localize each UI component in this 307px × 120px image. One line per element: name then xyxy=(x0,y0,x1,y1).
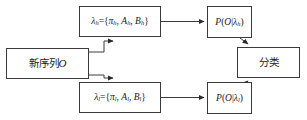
probability-low-node: P(O|λl) xyxy=(207,82,252,114)
model-low-label: λl={πl, Al, Bl} xyxy=(94,92,146,103)
edge-input-to-model-high xyxy=(89,41,113,52)
equals-open-brace: ={ xyxy=(99,16,109,26)
new-sequence-symbol: O xyxy=(59,57,67,69)
close-paren: ) xyxy=(240,17,243,27)
diagram-canvas: 新序列O λh={πh, Ah, Bh} λl={πl, Al, Bl} P(O… xyxy=(0,0,307,120)
edge-input-to-model-low xyxy=(89,75,113,78)
new-sequence-label: 新序列O xyxy=(29,57,67,70)
model-high-label: λh={πh, Ah, Bh} xyxy=(91,16,148,27)
classification-label: 分类 xyxy=(259,57,279,69)
model-high-node: λh={πh, Ah, Bh} xyxy=(79,6,161,37)
o-glyph: O xyxy=(225,93,232,103)
close-paren: ) xyxy=(240,93,243,103)
classification-node: 分类 xyxy=(237,47,300,78)
probability-low-label: P(O|λl) xyxy=(216,93,243,104)
new-sequence-cjk: 新序列 xyxy=(29,57,59,69)
close-brace: } xyxy=(144,16,149,26)
close-brace: } xyxy=(141,92,146,102)
equals-open-brace: ={ xyxy=(100,92,110,102)
edge-prob-high-to-classify xyxy=(240,38,248,44)
probability-high-label: P(O|λh) xyxy=(215,17,243,28)
new-sequence-node: 新序列O xyxy=(6,48,89,79)
probability-high-node: P(O|λh) xyxy=(207,6,252,38)
model-low-node: λl={πl, Al, Bl} xyxy=(79,82,161,113)
